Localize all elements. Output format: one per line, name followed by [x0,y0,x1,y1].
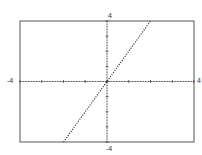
y-min-label: -4 [106,145,112,152]
chart-plot [0,0,202,155]
y-max-label: 4 [108,12,112,19]
x-max-label: 4 [197,77,201,84]
axes [20,21,194,142]
x-min-label: -4 [7,77,13,84]
